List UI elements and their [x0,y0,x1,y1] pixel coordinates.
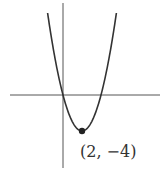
parabola-curve [48,13,117,131]
vertex-label: (2, −4) [80,142,136,161]
parabola-chart: (2, −4) [0,0,167,173]
vertex-point [79,128,85,134]
